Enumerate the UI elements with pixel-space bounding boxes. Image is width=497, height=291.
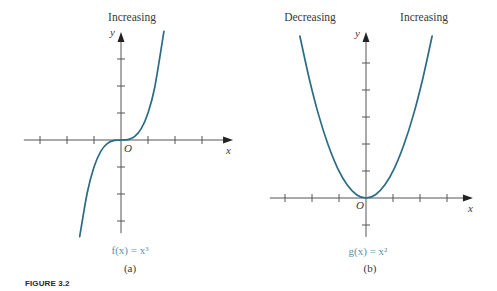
x-axis-arrow-icon <box>223 137 233 144</box>
figure: Increasing y x O f(x) = x³ (a) Decreasin… <box>0 0 497 291</box>
annotation-increasing: Increasing <box>108 11 156 24</box>
x-axis-label: x <box>225 144 231 156</box>
y-axis-arrow-icon <box>363 32 370 42</box>
annotation-decreasing: Decreasing <box>284 11 336 24</box>
y-axis-arrow-icon <box>118 32 125 42</box>
x-axis-arrow-icon <box>463 195 473 202</box>
figure-caption: FIGURE 3.2 <box>25 279 70 288</box>
panel-label: (b) <box>364 262 377 275</box>
origin-label: O <box>124 142 132 154</box>
x-axis-label: x <box>467 202 473 214</box>
axes <box>24 32 233 233</box>
axes <box>270 32 473 237</box>
function-curve <box>80 31 164 236</box>
annotation-increasing: Increasing <box>400 11 448 24</box>
y-axis-label: y <box>354 27 360 39</box>
origin-label: O <box>356 199 364 211</box>
function-label: g(x) = x² <box>349 245 389 258</box>
chart-panel-a: Increasing y x O f(x) = x³ (a) <box>24 11 233 275</box>
y-axis-label: y <box>109 26 115 38</box>
chart-panel-b: Decreasing Increasing y x O g(x) = x² (b… <box>270 11 473 275</box>
function-label: f(x) = x³ <box>112 244 150 257</box>
panel-label: (a) <box>124 262 137 275</box>
